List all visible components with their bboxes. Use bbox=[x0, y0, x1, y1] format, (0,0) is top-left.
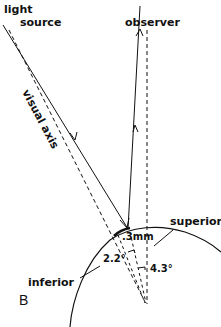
reflected-ray bbox=[128, 6, 143, 229]
observer-arrow-icon bbox=[136, 29, 143, 36]
angle-large-bracket bbox=[138, 267, 145, 270]
visual-axis-label: visual axis bbox=[19, 87, 61, 151]
angle-large-label: 4.3° bbox=[150, 263, 173, 274]
inferior-pointer bbox=[80, 266, 100, 278]
cornea-surface bbox=[70, 227, 221, 327]
distance-label: .3mm bbox=[122, 231, 154, 242]
observer-label: observer bbox=[125, 16, 180, 29]
normal-line bbox=[118, 235, 145, 303]
light-source-label-2: source bbox=[20, 16, 61, 29]
superior-pointer bbox=[154, 230, 173, 246]
panel-label: B bbox=[19, 292, 28, 308]
superior-label: superior bbox=[170, 215, 221, 228]
angle-small-label: 2.2° bbox=[103, 253, 126, 264]
corneal-reflection-diagram: light source observer visual axis superi… bbox=[0, 0, 221, 327]
light-source-label: light bbox=[4, 3, 33, 16]
inferior-label: inferior bbox=[28, 276, 75, 289]
